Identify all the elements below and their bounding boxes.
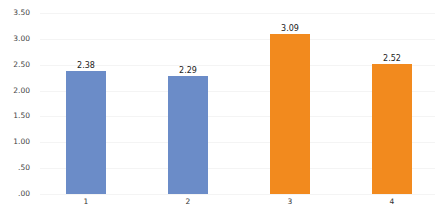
x-tick-label: 4 [372,197,412,207]
bar-value-label: 2.52 [372,54,412,64]
y-tick-label: .50 [0,163,30,173]
bar-3 [270,34,310,194]
bar-4 [372,64,412,194]
bar-value-label: 2.38 [66,61,106,71]
y-tick-label: 1.00 [0,137,30,147]
bar-1 [66,71,106,194]
bar-2 [168,76,208,194]
y-tick-label: .00 [0,189,30,199]
gridline [40,39,435,40]
y-tick-label: 3.00 [0,34,30,44]
bar-value-label: 3.09 [270,24,310,34]
x-tick-label: 2 [168,197,208,207]
bar-value-label: 2.29 [168,66,208,76]
gridline [40,194,435,195]
y-tick-label: 2.50 [0,60,30,70]
x-tick-label: 1 [66,197,106,207]
gridline [40,13,435,14]
y-tick-label: 2.00 [0,86,30,96]
x-tick-label: 3 [270,197,310,207]
bar-chart: .00.501.001.502.002.503.003.50 2.382.293… [0,0,440,214]
y-tick-label: 1.50 [0,111,30,121]
y-tick-label: 3.50 [0,8,30,18]
